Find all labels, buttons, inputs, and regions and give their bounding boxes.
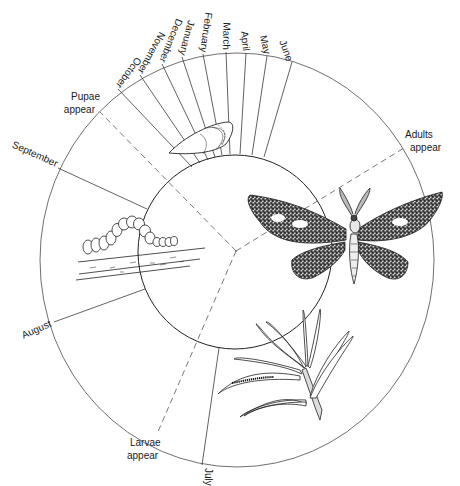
- stage-dashed-lines: [100, 112, 404, 434]
- left-forewing: [248, 195, 346, 243]
- month-label-may: May: [258, 34, 273, 55]
- month-labels: June May April March February January De…: [10, 12, 295, 486]
- right-antenna: [355, 188, 370, 216]
- left-antenna: [340, 188, 353, 216]
- stage-label-adults-line2: appear: [410, 142, 442, 153]
- month-divider-august: [54, 289, 145, 322]
- month-divider-june: [264, 62, 292, 157]
- stage-dashed-line-larvae: [157, 251, 236, 434]
- caterpillar-on-twig-illustration: [76, 216, 205, 280]
- adult-moth-illustration: [248, 188, 442, 284]
- month-divider-april: [240, 53, 246, 154]
- month-divider-may: [252, 56, 267, 155]
- right-forewing: [358, 192, 442, 241]
- life-cycle-diagram: June May April March February January De…: [0, 0, 460, 486]
- month-label-march: March: [221, 22, 232, 50]
- stage-label-pupae: Pupae appear: [64, 91, 101, 115]
- month-divider-october: [118, 89, 192, 167]
- month-label-june: June: [277, 38, 295, 63]
- stage-label-adults: Adults appear: [405, 129, 442, 153]
- month-label-september: September: [10, 139, 60, 169]
- cycle-center-point: [235, 250, 237, 252]
- stage-label-adults-line1: Adults: [405, 129, 433, 140]
- stage-label-larvae-line1: Larvae: [130, 437, 161, 448]
- month-label-july: July: [203, 468, 214, 486]
- right-hindwing: [358, 242, 408, 279]
- month-label-february: February: [198, 12, 214, 53]
- caterpillar-body: [83, 216, 178, 254]
- larva-on-pine-needles-illustration: [218, 309, 353, 420]
- pupa-illustration: [169, 122, 233, 154]
- month-label-april: April: [239, 30, 252, 51]
- month-divider-july: [202, 348, 219, 465]
- stage-label-larvae-line2: appear: [127, 450, 159, 461]
- moth-abdomen: [350, 234, 359, 284]
- month-divider-september: [58, 168, 147, 209]
- month-label-august: August: [20, 318, 53, 341]
- left-hindwing: [292, 242, 345, 279]
- stage-label-pupae-line1: Pupae: [71, 91, 100, 102]
- stage-label-pupae-line2: appear: [64, 104, 96, 115]
- month-label-october: October: [114, 55, 144, 91]
